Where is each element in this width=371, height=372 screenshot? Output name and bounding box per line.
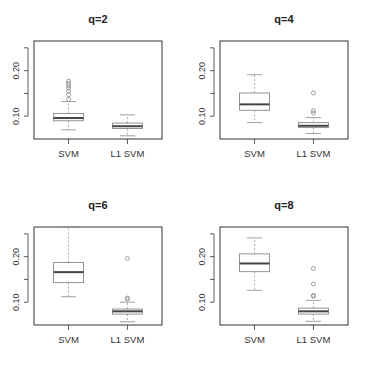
box-svm — [54, 79, 84, 130]
y-tick-label: 0.10 — [11, 293, 21, 311]
x-category-label: SVM — [58, 148, 79, 159]
outlier-point — [311, 266, 315, 270]
y-tick-label: 0.10 — [11, 107, 21, 125]
boxplot-q8: q=80.100.20SVML1 SVM — [186, 186, 371, 372]
x-category-label: SVM — [244, 148, 265, 159]
outlier-point — [125, 256, 129, 260]
y-tick-label: 0.10 — [197, 107, 207, 125]
y-tick-label: 0.20 — [11, 62, 21, 80]
box-svm — [54, 227, 84, 297]
box-l1-svm — [298, 266, 328, 321]
box-l1-svm — [298, 91, 328, 134]
box-svm — [240, 75, 270, 123]
boxplot-q4: q=40.100.20SVML1 SVM — [186, 0, 371, 186]
y-tick-label: 0.10 — [197, 293, 207, 311]
panel-q8: q=80.100.20SVML1 SVM — [186, 186, 371, 372]
box-l1-svm — [112, 115, 142, 136]
y-tick-label: 0.20 — [11, 248, 21, 266]
outlier-point — [311, 91, 315, 95]
box-l1-svm — [112, 256, 142, 321]
outlier-point — [67, 97, 71, 101]
x-category-label: L1 SVM — [297, 334, 331, 345]
panel-q6: q=60.100.20SVML1 SVM — [0, 186, 185, 372]
y-tick-label: 0.20 — [197, 62, 207, 80]
x-category-label: SVM — [58, 334, 79, 345]
panel-q2: q=20.100.20SVML1 SVM — [0, 0, 185, 186]
x-category-label: SVM — [244, 334, 265, 345]
y-tick-label: 0.20 — [197, 248, 207, 266]
chart-title: q=6 — [88, 199, 107, 211]
x-category-label: L1 SVM — [297, 148, 331, 159]
x-category-label: L1 SVM — [111, 334, 145, 345]
chart-title: q=8 — [274, 199, 293, 211]
boxplot-q6: q=60.100.20SVML1 SVM — [0, 186, 185, 372]
outlier-point — [311, 282, 315, 286]
chart-title: q=4 — [274, 13, 294, 25]
box-svm — [240, 238, 270, 290]
chart-title: q=2 — [88, 13, 107, 25]
x-category-label: L1 SVM — [111, 148, 145, 159]
boxplot-q2: q=20.100.20SVML1 SVM — [0, 0, 185, 186]
panel-q4: q=40.100.20SVML1 SVM — [186, 0, 371, 186]
